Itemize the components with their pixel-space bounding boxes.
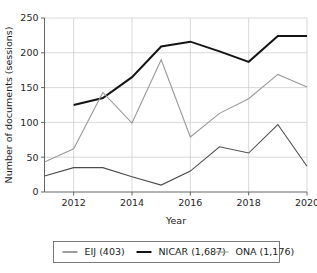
x-tick-label: 2014 (120, 197, 144, 208)
y-tick-label: 0 (32, 186, 38, 197)
chart-legend: EIJ (403)NICAR (1,687)ONA (1,176) (54, 242, 295, 263)
line-chart: 050100150200250 20122014201620182020 Yea… (0, 0, 317, 273)
x-tick-label: 2020 (295, 197, 317, 208)
figure-background (0, 0, 317, 273)
x-tick-label: 2012 (62, 197, 86, 208)
x-tick-label: 2018 (237, 197, 261, 208)
y-tick-label: 100 (20, 117, 38, 128)
y-tick-label: 150 (20, 82, 38, 93)
y-tick-label: 50 (26, 152, 38, 163)
chart-figure: 050100150200250 20122014201620182020 Yea… (0, 0, 317, 273)
y-axis-title: Number of documents (sessions) (3, 27, 14, 184)
y-tick-label: 200 (20, 47, 38, 58)
legend-label: EIJ (403) (85, 246, 125, 257)
x-tick-label: 2016 (178, 197, 202, 208)
legend-items: EIJ (403)NICAR (1,687)ONA (1,176) (63, 246, 295, 257)
y-tick-label: 250 (20, 12, 38, 23)
x-axis-title: Year (165, 215, 186, 226)
legend-label: ONA (1,176) (236, 246, 295, 257)
